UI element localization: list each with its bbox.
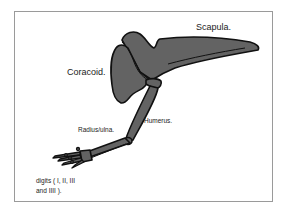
scapula-bone (122, 32, 259, 80)
digit-bones (53, 148, 84, 169)
digits-label: digits ( I, II, III and IIII ). (36, 176, 75, 196)
humerus-label: Humerus. (144, 117, 172, 124)
radius-ulna-label: Radius/ulna. (78, 126, 114, 133)
digits-label-line1: digits ( I, II, III (36, 176, 75, 186)
scapula-label: Scapula. (196, 22, 231, 32)
coracoid-label: Coracoid. (67, 67, 106, 77)
digits-label-line2: and IIII ). (36, 186, 75, 196)
